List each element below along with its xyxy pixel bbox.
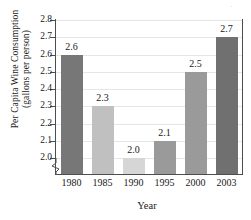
bar-value-label: 2.1 xyxy=(148,128,182,138)
gridline xyxy=(56,124,242,125)
x-axis-title: Year xyxy=(48,200,246,211)
bar-value-label: 2.0 xyxy=(117,145,151,155)
bar xyxy=(216,37,238,174)
gridline xyxy=(56,72,242,73)
bar xyxy=(154,141,176,174)
plot-right-border xyxy=(242,19,243,175)
bar-value-label: 2.5 xyxy=(179,59,213,69)
bar-value-label: 2.3 xyxy=(86,93,120,103)
y-axis-tick-label: 2.4 xyxy=(26,84,52,94)
y-axis-tick-label: 2.2 xyxy=(26,119,52,129)
bar xyxy=(185,72,207,174)
x-axis-tick-label: 2003 xyxy=(210,178,244,188)
scan-artifact-mark: · xyxy=(230,2,238,10)
gridline xyxy=(56,141,242,142)
gridline xyxy=(56,55,242,56)
x-axis-line xyxy=(55,174,243,175)
gridline xyxy=(56,37,242,38)
bar-chart: · Per Capita Wine Consumption (gallons p… xyxy=(0,0,251,220)
y-axis-tick-label: 2.0 xyxy=(26,153,52,163)
x-axis-tick-label: 1980 xyxy=(55,178,89,188)
bar xyxy=(123,158,145,174)
y-axis-tick-label: 2.7 xyxy=(26,32,52,42)
y-axis-tick-label: 2.3 xyxy=(26,101,52,111)
x-axis-tick-label: 1985 xyxy=(86,178,120,188)
y-axis-tick-label: 2.6 xyxy=(26,50,52,60)
x-axis-tick-label: 2000 xyxy=(179,178,213,188)
bar-value-label: 2.6 xyxy=(55,42,89,52)
gridline xyxy=(56,89,242,90)
gridline xyxy=(56,20,242,21)
y-axis-title-line1: Per Capita Wine Consumption xyxy=(10,10,20,129)
y-axis-tick-label: 2.1 xyxy=(26,136,52,146)
bar-value-label: 2.7 xyxy=(210,24,244,34)
x-axis-tick-label: 1995 xyxy=(148,178,182,188)
bar xyxy=(61,55,83,175)
gridline xyxy=(56,158,242,159)
bar xyxy=(92,106,114,174)
y-axis-tick-label: 2.5 xyxy=(26,67,52,77)
x-axis-tick-label: 1990 xyxy=(117,178,151,188)
gridline xyxy=(56,106,242,107)
y-axis-tick-label: 2.8 xyxy=(26,15,52,25)
